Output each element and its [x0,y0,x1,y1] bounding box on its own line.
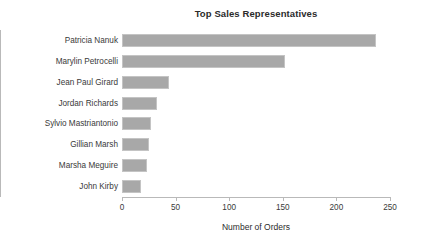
x-axis-tick [122,197,123,201]
x-axis-tick [283,197,284,201]
bar [122,180,141,193]
y-axis-tick-label: John Kirby [6,182,118,191]
bar-row [122,72,390,93]
bar [122,76,169,89]
bar [122,34,376,47]
x-axis-tick-label: 200 [330,203,344,212]
bar [122,55,285,68]
y-axis-tick-label: Patricia Nanuk [6,36,118,45]
bar-row [122,134,390,155]
y-axis-tick-label: Jean Paul Girard [6,78,118,87]
bar [122,159,147,172]
bar-row [122,30,390,51]
bar-chart: Top Sales Representatives Patricia Nanuk… [0,0,429,243]
x-axis-tick-label: 0 [120,203,125,212]
x-axis-line [122,197,391,198]
y-axis-tick-label: Marylin Petrocelli [6,57,118,66]
x-axis-tick [336,197,337,201]
y-axis-tick-label: Gillian Marsh [6,140,118,149]
x-axis-tick-label: 250 [383,203,397,212]
y-axis-tick-label: Marsha Meguire [6,161,118,170]
x-axis-title: Number of Orders [122,222,390,232]
x-axis-tick-label: 100 [222,203,236,212]
x-axis-tick-label: 50 [171,203,180,212]
x-axis-tick-label: 150 [276,203,290,212]
x-axis-tick [176,197,177,201]
bar [122,117,151,130]
bar-row [122,114,390,135]
bar [122,138,149,151]
bar-row [122,93,390,114]
bar-row [122,176,390,197]
y-axis-tick-labels: Patricia NanukMarylin PetrocelliJean Pau… [4,30,118,197]
y-axis-tick-label: Jordan Richards [6,99,118,108]
bar-row [122,155,390,176]
x-axis-tick [390,197,391,201]
y-axis-tick-label: Sylvio Mastriantonio [6,119,118,128]
bar [122,97,157,110]
y-axis-line [0,30,1,197]
chart-title: Top Sales Representatives [122,8,390,19]
x-axis-tick [229,197,230,201]
bar-row [122,51,390,72]
plot-area [122,30,390,197]
